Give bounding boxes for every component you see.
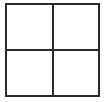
quadrant-grid xyxy=(5,3,100,97)
figure-canvas xyxy=(0,0,105,102)
grid-cell-bottom-left xyxy=(7,50,53,95)
grid-cell-top-left xyxy=(7,5,53,50)
grid-cell-top-right xyxy=(53,5,99,50)
grid-cell-bottom-right xyxy=(53,50,99,95)
